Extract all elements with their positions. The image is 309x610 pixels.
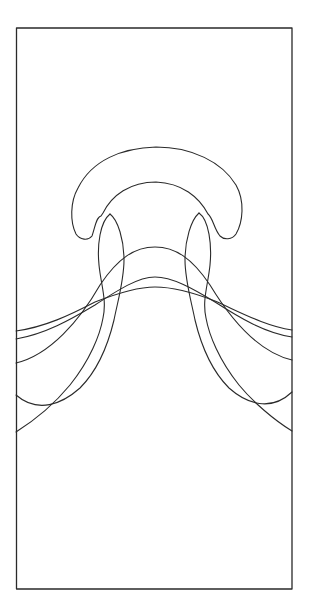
plume-contour-diagram (0, 0, 309, 610)
arch-5 (16, 287, 292, 331)
stem-right-inner (185, 213, 292, 404)
stem-left-inner (16, 214, 124, 405)
arch-3 (16, 247, 292, 363)
stem-right-lobe (199, 213, 292, 431)
frame-border (17, 28, 293, 589)
cap-outline (72, 147, 242, 239)
arch-4 (16, 277, 292, 339)
